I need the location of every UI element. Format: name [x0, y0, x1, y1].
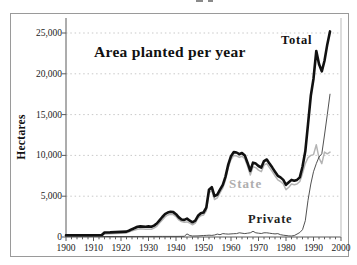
chart-figure: Area planted per year Hectares Total Sta…	[0, 0, 357, 265]
y-tick-label: 5,000	[16, 191, 62, 201]
y-tick-label: 20,000	[16, 69, 62, 79]
chart-title: Area planted per year	[94, 43, 246, 61]
y-tick-label: 10,000	[16, 150, 62, 160]
series-label-state: State	[229, 176, 262, 192]
y-tick-label: 25,000	[16, 28, 62, 38]
series-label-total: Total	[281, 33, 312, 48]
y-tick-label: 0	[16, 232, 62, 242]
series-label-private: Private	[248, 212, 292, 227]
y-tick-label: 15,000	[16, 110, 62, 120]
x-tick-label: 2000	[324, 243, 357, 253]
series-line-total	[66, 31, 330, 235]
